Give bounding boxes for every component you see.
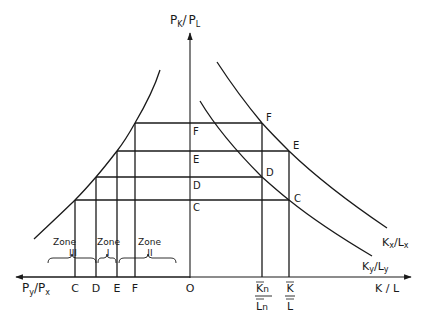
svg-text:Ln: Ln <box>256 300 268 313</box>
point-label-f: F <box>266 112 272 123</box>
price-label-c: C <box>193 202 200 213</box>
price-label-d: D <box>193 180 201 191</box>
price-label-f: F <box>193 126 199 137</box>
kx-lx-label: Kx/Lx <box>382 236 409 250</box>
tick-label-e: E <box>114 282 121 295</box>
zone-i-numeral: I <box>107 248 110 258</box>
zone-i-word: Zone <box>97 237 120 247</box>
ky-ly-curve <box>200 101 372 256</box>
diagram-canvas: PK/PL F E D C F E D C Kx/Lx Ky/Ly Zone I… <box>0 0 427 319</box>
point-label-e: E <box>293 140 299 151</box>
zone-iii-numeral: III <box>69 248 77 258</box>
point-label-c: C <box>294 193 301 204</box>
k-l-tick-label: K L <box>285 282 295 313</box>
svg-text:Kn: Kn <box>256 282 269 295</box>
price-label-e: E <box>193 154 199 165</box>
left-axis-label: Py/Px <box>22 281 50 297</box>
zone-ii-numeral: II <box>147 248 152 258</box>
svg-text:K: K <box>286 282 294 295</box>
vertical-axis-label: PK/PL <box>170 13 201 29</box>
right-axis-label: K / L <box>375 282 400 295</box>
svg-text:L: L <box>287 300 294 313</box>
zone-ii-word: Zone <box>138 237 161 247</box>
tick-label-c: C <box>71 282 79 295</box>
left-price-curve <box>34 70 160 239</box>
tick-label-d: D <box>92 282 100 295</box>
origin-label: O <box>186 282 195 295</box>
tick-label-f: F <box>132 282 138 295</box>
point-label-d: D <box>266 167 274 178</box>
zone-iii-word: Zone <box>53 237 76 247</box>
ky-ly-label: Ky/Ly <box>362 260 389 274</box>
kx-lx-curve <box>217 62 387 228</box>
kn-ln-tick-label: Kn Ln <box>255 282 272 313</box>
